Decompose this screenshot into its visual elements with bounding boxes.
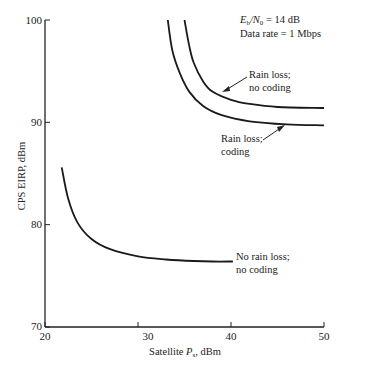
curve-no-rain-loss-no-coding xyxy=(62,167,233,261)
y-tick-label: 90 xyxy=(31,116,43,128)
axis-ticks xyxy=(45,20,324,327)
series-label-no-rain-no-coding: No rain loss; no coding xyxy=(236,251,292,275)
x-tick-label: 20 xyxy=(40,330,52,342)
y-tick-label: 80 xyxy=(31,218,43,230)
chart: 100 90 80 70 20 30 40 50 Satellite Ps, d… xyxy=(0,0,373,370)
arrowhead-icon xyxy=(222,86,230,92)
series-label-rain-no-coding: Rain loss; no coding xyxy=(249,69,293,93)
series-label-rain-coding: Rain loss; coding xyxy=(221,133,265,157)
ebno-annotation: Eb/N0 = 14 dB xyxy=(239,14,300,27)
data-curves xyxy=(62,20,324,262)
x-tick-label: 50 xyxy=(319,330,331,342)
arrowhead-icon xyxy=(277,125,285,132)
data-rate-annotation: Data rate = 1 Mbps xyxy=(240,28,321,39)
y-axis-label: CPS EIRP, dBm xyxy=(16,142,27,211)
y-tick-label: 100 xyxy=(26,14,43,26)
x-tick-label: 40 xyxy=(226,330,238,342)
x-axis-label: Satellite Ps, dBm xyxy=(149,346,221,359)
x-tick-label: 30 xyxy=(143,330,155,342)
